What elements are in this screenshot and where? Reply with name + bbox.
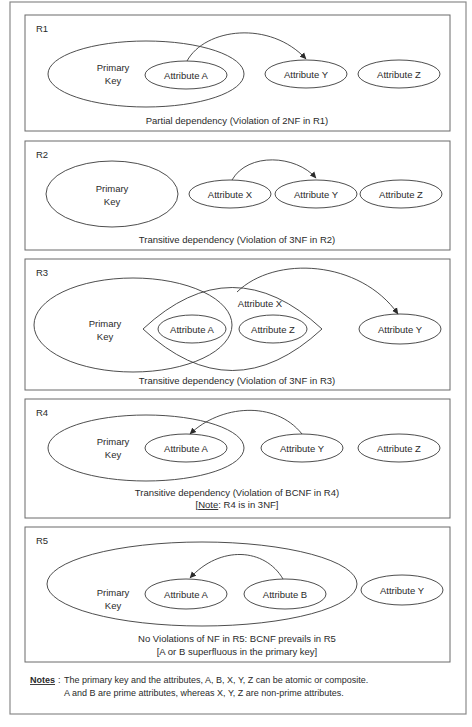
panel-r1-title: R1	[36, 23, 48, 34]
panel-r2-title: R2	[36, 149, 48, 160]
notes-section: Notes : The primary key and the attribut…	[30, 675, 368, 698]
notes-line-1: The primary key and the attributes, A, B…	[64, 675, 368, 685]
r3-attribute-z-label: Attribute Z	[251, 324, 295, 335]
r3-attribute-y-label: Attribute Y	[378, 324, 423, 335]
r3-attribute-x-label: Attribute X	[238, 298, 283, 309]
panel-r1: R1 Primary Key Attribute A Attribute Y A…	[25, 15, 450, 131]
r5-attribute-a-label: Attribute A	[164, 589, 208, 600]
r1-primary-key-label-line1: Primary	[97, 62, 130, 73]
panel-r2: R2 Primary Key Attribute X Attribute Y A…	[25, 141, 450, 250]
r5-caption-line1: No Violations of NF in R5: BCNF prevails…	[138, 633, 336, 644]
r5-attribute-b-label: Attribute B	[263, 589, 307, 600]
notes-line-2: A and B are prime attributes, whereas X,…	[64, 688, 344, 698]
r5-primary-key-label-line1: Primary	[97, 587, 130, 598]
notes-heading: Notes	[30, 675, 55, 685]
r4-caption-note: [Note: R4 is in 3NF]	[196, 499, 279, 510]
r4-attribute-z-label: Attribute Z	[377, 443, 421, 454]
r2-attribute-z-label: Attribute Z	[379, 189, 423, 200]
r4-caption: Transitive dependency (Violation of BCNF…	[135, 487, 339, 498]
r1-primary-key-label-line2: Key	[105, 75, 122, 86]
panel-r5-title: R5	[36, 535, 48, 546]
r2-primary-key-label-line2: Key	[104, 196, 121, 207]
r1-attribute-y-label: Attribute Y	[284, 69, 329, 80]
r4-attribute-y-label: Attribute Y	[280, 443, 325, 454]
panel-r5: R5 Primary Key Attribute A Attribute B A…	[25, 527, 450, 662]
r4-note-label: Note	[198, 499, 218, 510]
panel-r3-title: R3	[36, 267, 48, 278]
r2-primary-key-label-line1: Primary	[96, 183, 129, 194]
r2-caption: Transitive dependency (Violation of 3NF …	[139, 234, 335, 245]
r4-attribute-a-label: Attribute A	[164, 443, 208, 454]
r2-attribute-x-label: Attribute X	[208, 189, 253, 200]
r5-attribute-y-label: Attribute Y	[380, 585, 425, 596]
r4-primary-key-label-line2: Key	[105, 449, 122, 460]
r5-caption-line2: [A or B superfluous in the primary key]	[157, 646, 318, 657]
r3-primary-key-label-line2: Key	[97, 331, 114, 342]
r3-primary-key-label-line1: Primary	[89, 318, 122, 329]
r3-caption: Transitive dependency (Violation of 3NF …	[139, 375, 335, 386]
r5-primary-key-label-line2: Key	[105, 600, 122, 611]
r1-attribute-z-label: Attribute Z	[377, 69, 421, 80]
r1-caption: Partial dependency (Violation of 2NF in …	[146, 115, 329, 126]
panel-r3: R3 Primary Key Attribute X Attribute A A…	[25, 259, 450, 390]
r4-primary-key-label-line1: Primary	[97, 436, 130, 447]
r1-attribute-a-label: Attribute A	[164, 70, 208, 81]
r2-attribute-y-label: Attribute Y	[294, 189, 339, 200]
panel-r4-title: R4	[36, 407, 48, 418]
normal-forms-diagram: R1 Primary Key Attribute A Attribute Y A…	[0, 0, 472, 727]
r3-attribute-a-label: Attribute A	[170, 324, 214, 335]
notes-colon: :	[58, 675, 61, 685]
panel-r4: R4 Primary Key Attribute A Attribute Y A…	[25, 399, 450, 518]
